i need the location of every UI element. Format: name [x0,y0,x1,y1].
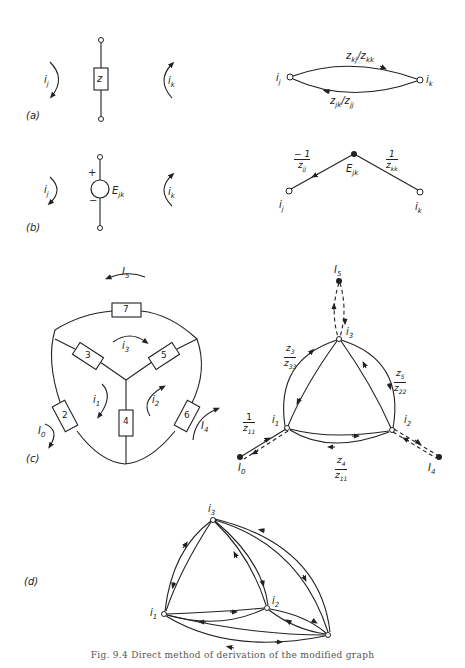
graph-c-label-z5-z22: z5z22 [394,368,406,397]
panel-d-tag: (d) [24,576,38,587]
graph-c-node-I4: I4 [428,462,435,476]
graph-d-node-i2: i2 [272,595,279,609]
graph-a-node-ik: ik [426,74,433,88]
impedance-4: 4 [123,416,129,426]
impedance-7: 7 [123,304,129,314]
impedance-2: 2 [62,410,68,420]
current-ij-label: ij [44,184,49,198]
graph-b-left-label: − 1zjj [294,149,310,174]
graph-b-node-Ejk: Ejk [346,163,358,177]
figure-caption: Fig. 9.4 Direct method of derivation of … [0,650,465,660]
graph-c-label-1-z11: 1z11 [243,412,255,437]
current-ik-label: ik [168,75,175,89]
impedance-6: 6 [184,410,190,420]
loop-I5-label: I5 [122,266,129,280]
panel-a-tag: (a) [26,110,40,121]
panel-c-tag: (c) [26,453,39,464]
graph-a-upper-label: zkj/zkk [346,50,374,64]
graph-a-lower-label: zjk/zjj [330,95,354,109]
graph-c-label-z4-z11: z4z11 [335,455,347,484]
graph-c-node-i1: i1 [272,414,279,428]
graph-b-node-ik: ik [415,201,422,215]
loop-I0-label: I0 [38,425,45,439]
graph-d-node-i3: i3 [208,503,215,517]
impedance-z-label: z [97,73,102,84]
graph-d-node-i1: i1 [150,607,157,621]
loop-i2-label: i2 [152,394,159,408]
impedance-5: 5 [161,350,167,360]
minus-sign: − [89,195,97,206]
graph-c-node-i3: i3 [346,326,353,340]
current-ij-label: ij [44,74,49,88]
graph-c-node-I5: I5 [334,264,341,278]
plus-sign: + [88,167,96,178]
loop-i3-label: i3 [122,340,129,354]
graph-a-node-ij: ij [276,72,281,86]
source-Ejk-label: Ejk [112,185,124,199]
loop-i1-label: i1 [93,394,100,408]
impedance-3: 3 [85,350,91,360]
graph-b-right-label: 1zkk [386,149,398,174]
graph-b-node-ij: ij [279,199,284,213]
current-ik-label: ik [168,186,175,200]
graph-c-node-I0: I0 [238,462,245,476]
panel-b-tag: (b) [26,222,40,233]
graph-c-node-i2: i2 [404,414,411,428]
loop-I4-label: I4 [201,420,208,434]
graph-c-label-z3-z33: z3z33 [284,343,296,372]
